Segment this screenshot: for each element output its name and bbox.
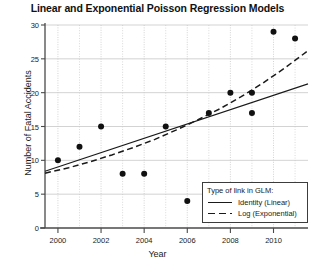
legend-title: Type of link in GLM: xyxy=(207,186,303,195)
legend-item-linear: Identity (Linear) xyxy=(207,198,303,207)
legend: Type of link in GLM: Identity (Linear) L… xyxy=(202,182,308,223)
x-tick-label: 2004 xyxy=(136,236,153,245)
legend-label-exponential: Log (Exponential) xyxy=(238,209,297,218)
scatter-points xyxy=(55,29,298,204)
y-tick-label: 30 xyxy=(15,21,39,30)
regression-lines xyxy=(45,51,308,173)
legend-item-exponential: Log (Exponential) xyxy=(207,209,303,218)
y-tick-label: 0 xyxy=(15,224,39,233)
x-tick-label: 2008 xyxy=(222,236,239,245)
legend-label-linear: Identity (Linear) xyxy=(238,198,290,207)
x-axis-title: Year xyxy=(0,249,315,259)
y-axis-title: Number of Fatal Accidents xyxy=(23,43,33,203)
x-tick-label: 2000 xyxy=(50,236,67,245)
legend-swatch-solid-line xyxy=(207,198,233,207)
chart-figure: Linear and Exponential Poisson Regressio… xyxy=(0,0,315,264)
plot-canvas xyxy=(0,0,315,264)
x-tick-label: 2002 xyxy=(93,236,110,245)
legend-swatch-dashed-line xyxy=(207,209,233,218)
x-tick-label: 2006 xyxy=(179,236,196,245)
x-tick-label: 2010 xyxy=(265,236,282,245)
